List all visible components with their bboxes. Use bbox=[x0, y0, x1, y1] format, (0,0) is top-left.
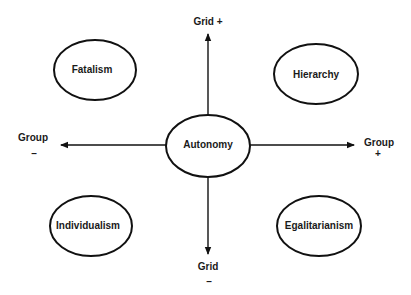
autonomy-label: Autonomy bbox=[183, 139, 233, 150]
grid-group-diagram: Grid + Grid – Group – Group + Autonomy F… bbox=[0, 0, 411, 295]
egalitarianism-label: Egalitarianism bbox=[285, 220, 353, 231]
individualism-label: Individualism bbox=[56, 220, 120, 231]
hierarchy-label: Hierarchy bbox=[293, 69, 340, 80]
grid-minus-label: Grid bbox=[198, 261, 219, 272]
group-plus-sign: + bbox=[375, 148, 381, 159]
group-plus-label: Group bbox=[364, 137, 394, 148]
individualism-node: Individualism bbox=[50, 196, 132, 256]
group-minus-label: Group bbox=[18, 132, 48, 143]
grid-plus-label: Grid + bbox=[193, 16, 222, 27]
group-minus-sign: – bbox=[31, 148, 37, 159]
fatalism-node: Fatalism bbox=[54, 40, 136, 100]
fatalism-label: Fatalism bbox=[72, 64, 113, 75]
grid-minus-sign: – bbox=[206, 276, 212, 287]
autonomy-node: Autonomy bbox=[166, 115, 250, 177]
egalitarianism-node: Egalitarianism bbox=[277, 196, 361, 256]
hierarchy-node: Hierarchy bbox=[274, 44, 358, 104]
